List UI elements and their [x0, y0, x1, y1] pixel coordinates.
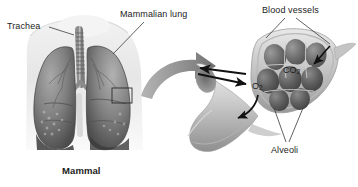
caption-mammal: Mammal: [62, 166, 101, 176]
co2-subscript: 2: [297, 68, 301, 75]
label-alveoli: Alveoli: [271, 146, 298, 155]
label-blood-vessels: Blood vessels: [262, 6, 319, 15]
alveoli-cluster-art: [251, 29, 356, 113]
figure-artwork: [0, 0, 358, 187]
label-o2: O2: [252, 82, 263, 92]
o2-subscript: 2: [259, 84, 263, 91]
label-trachea: Trachea: [7, 22, 40, 31]
lung-gas-exchange-figure: Trachea Mammalian lung Mammal Blood vess…: [0, 0, 358, 187]
label-co2: CO2: [283, 66, 300, 76]
alveoli-leader-right: [289, 108, 303, 142]
co2-symbol: CO: [283, 65, 297, 75]
label-mammalian-lung: Mammalian lung: [120, 10, 187, 19]
